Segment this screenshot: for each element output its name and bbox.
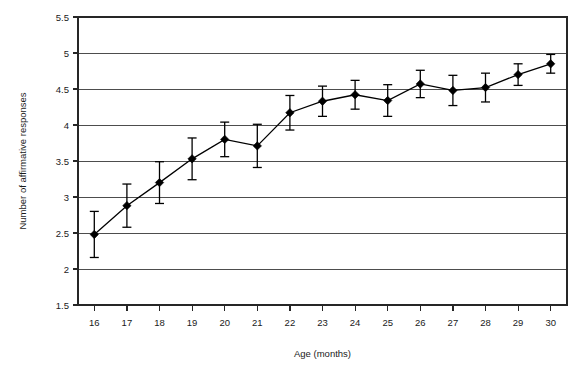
y-tick-label: 3.5: [56, 156, 69, 167]
x-tick-label: 18: [154, 317, 165, 328]
x-tick-label: 20: [219, 317, 230, 328]
chart-container: 161718192021222324252627282930 1.522.533…: [0, 0, 582, 374]
x-tick-label: 27: [448, 317, 459, 328]
x-tick-label: 26: [415, 317, 426, 328]
y-axis-title: Number of affirmative responses: [17, 92, 28, 229]
y-tick-label: 4: [64, 120, 69, 131]
line-chart-with-error-bars: 161718192021222324252627282930 1.522.533…: [0, 0, 582, 374]
x-tick-label: 16: [89, 317, 100, 328]
x-tick-label: 28: [480, 317, 491, 328]
x-tick-label: 19: [187, 317, 198, 328]
x-tick-label: 17: [122, 317, 133, 328]
x-tick-label: 25: [382, 317, 393, 328]
y-tick-label: 2: [64, 264, 69, 275]
x-tick-label: 22: [285, 317, 296, 328]
y-tick-label: 3: [64, 192, 69, 203]
x-tick-label: 24: [350, 317, 361, 328]
y-tick-label: 4.5: [56, 84, 69, 95]
x-axis-tick-labels: 161718192021222324252627282930: [89, 317, 556, 328]
x-tick-label: 23: [317, 317, 328, 328]
x-axis-title: Age (months): [294, 348, 351, 359]
x-tick-label: 21: [252, 317, 263, 328]
x-tick-label: 29: [513, 317, 524, 328]
y-tick-label: 1.5: [56, 300, 69, 311]
y-tick-label: 5.5: [56, 12, 69, 23]
x-tick-label: 30: [545, 317, 556, 328]
y-tick-label: 2.5: [56, 228, 69, 239]
y-tick-label: 5: [64, 48, 69, 59]
